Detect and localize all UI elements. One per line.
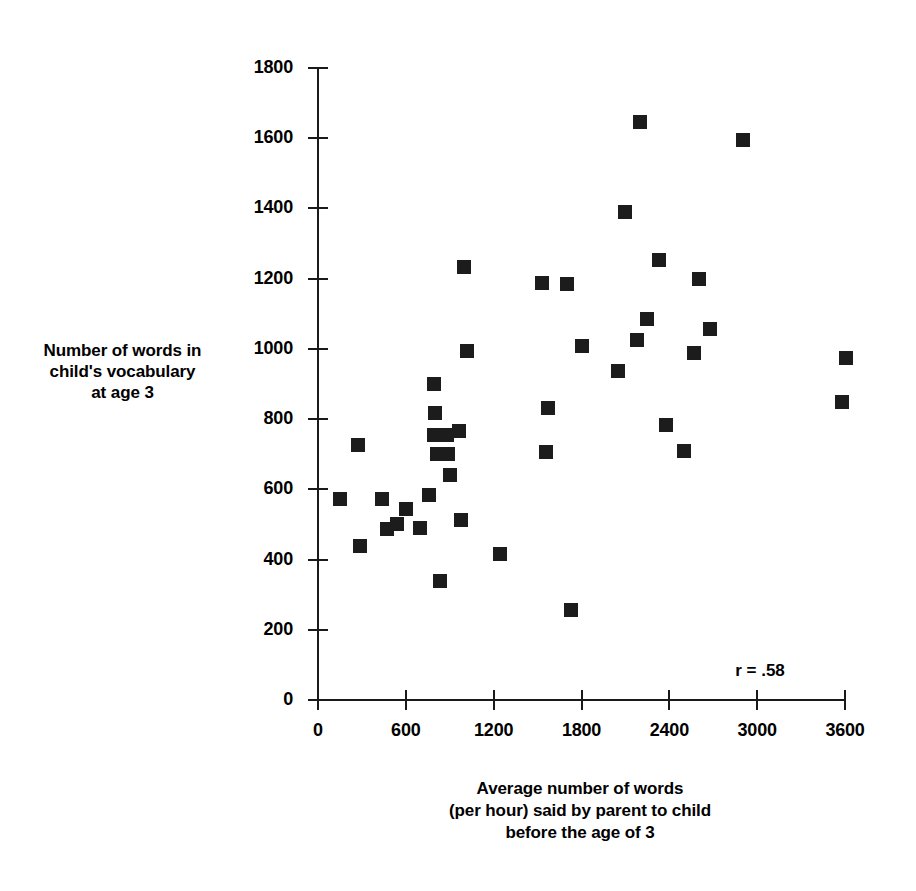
data-point [433, 574, 447, 588]
data-point [427, 428, 441, 442]
data-point [659, 418, 673, 432]
y-axis-tick-label: 0 [223, 689, 293, 710]
y-axis-tick [308, 559, 328, 561]
data-point [413, 521, 427, 535]
data-point [460, 344, 474, 358]
y-axis-tick-label: 200 [223, 619, 293, 640]
y-axis-tick-label: 1400 [223, 197, 293, 218]
data-point [351, 438, 365, 452]
data-point [452, 424, 466, 438]
data-point [541, 401, 555, 415]
y-axis-tick [308, 207, 328, 209]
x-axis-tick-label: 3600 [810, 720, 880, 741]
x-axis-tick-label: 3000 [722, 720, 792, 741]
y-axis-tick [308, 137, 328, 139]
data-point [575, 339, 589, 353]
y-axis-tick-label: 1600 [223, 127, 293, 148]
x-axis-tick-label: 1200 [459, 720, 529, 741]
data-point [427, 377, 441, 391]
data-point [839, 351, 853, 365]
scatter-plot-figure: Number of words in child's vocabulary at… [0, 0, 916, 891]
x-axis-tick [317, 690, 319, 710]
data-point [560, 277, 574, 291]
data-point [618, 205, 632, 219]
data-point [457, 260, 471, 274]
x-axis-tick [668, 690, 670, 710]
y-axis-tick [308, 67, 328, 69]
x-axis-tick-label: 2400 [634, 720, 704, 741]
data-point [677, 444, 691, 458]
data-point [703, 322, 717, 336]
y-axis-tick-label: 800 [223, 408, 293, 429]
y-axis-tick-label: 400 [223, 549, 293, 570]
correlation-annotation: r = .58 [735, 661, 785, 681]
data-point [539, 445, 553, 459]
data-point [422, 488, 436, 502]
y-axis-tick [308, 488, 328, 490]
data-point [640, 312, 654, 326]
data-point [353, 539, 367, 553]
data-point [375, 492, 389, 506]
x-axis-tick-label: 1800 [547, 720, 617, 741]
x-axis-tick [493, 690, 495, 710]
data-point [441, 447, 455, 461]
y-axis-tick [308, 348, 328, 350]
data-point [493, 547, 507, 561]
data-point [564, 603, 578, 617]
data-point [652, 253, 666, 267]
data-point [443, 468, 457, 482]
y-axis-tick [308, 629, 328, 631]
data-point [333, 492, 347, 506]
data-point [399, 502, 413, 516]
y-axis-tick-label: 1000 [223, 338, 293, 359]
data-point [611, 364, 625, 378]
data-point [454, 513, 468, 527]
y-axis-line [317, 68, 319, 700]
data-point [633, 115, 647, 129]
x-axis-tick [405, 690, 407, 710]
x-axis-tick [756, 690, 758, 710]
x-axis-tick [844, 690, 846, 710]
plot-area: 0200400600800100012001400160018000600120… [0, 0, 916, 891]
data-point [736, 133, 750, 147]
x-axis-tick-label: 600 [371, 720, 441, 741]
y-axis-tick-label: 1800 [223, 57, 293, 78]
data-point [687, 346, 701, 360]
x-axis-tick-label: 0 [283, 720, 353, 741]
data-point [428, 406, 442, 420]
data-point [835, 395, 849, 409]
y-axis-tick-label: 600 [223, 478, 293, 499]
data-point [535, 276, 549, 290]
y-axis-tick [308, 278, 328, 280]
data-point [390, 517, 404, 531]
data-point [630, 333, 644, 347]
x-axis-tick [581, 690, 583, 710]
y-axis-tick-label: 1200 [223, 268, 293, 289]
y-axis-tick [308, 418, 328, 420]
data-point [692, 272, 706, 286]
